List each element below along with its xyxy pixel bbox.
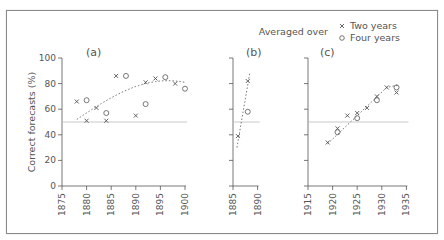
circle-marker [84, 98, 89, 103]
cross-marker [326, 140, 330, 144]
cross-marker [153, 76, 157, 80]
y-tick-label: 20 [45, 155, 57, 165]
x-tick-label: 1935 [401, 193, 411, 216]
y-tick-label: 80 [45, 79, 57, 89]
legend-two-years: Two years [349, 20, 397, 31]
x-tick-label: 1915 [303, 193, 313, 216]
legend-title: Averaged over [259, 26, 328, 37]
circle-marker [143, 102, 148, 107]
circle-marker [355, 116, 360, 121]
y-tick-label: 100 [39, 53, 56, 63]
cross-marker [75, 100, 79, 104]
y-tick-label: 40 [45, 130, 57, 140]
legend-cross-icon [340, 24, 344, 28]
cross-marker [365, 106, 369, 110]
x-tick-label: 1930 [377, 193, 387, 216]
x-tick-label: 1900 [180, 193, 190, 216]
cross-marker [395, 91, 399, 95]
circle-marker [374, 98, 379, 103]
x-tick-label: 1920 [328, 193, 338, 216]
cross-marker [345, 114, 349, 118]
x-tick-label: 1885 [106, 193, 116, 216]
legend-circle-icon [340, 36, 345, 41]
panel-label: (b) [246, 46, 262, 59]
legend-four-years: Four years [350, 32, 400, 43]
circle-marker [123, 73, 128, 78]
trend-curve [77, 81, 185, 120]
y-tick-label: 60 [45, 104, 57, 114]
y-tick-label: 0 [50, 181, 56, 191]
panel-c [304, 58, 408, 190]
circle-marker [335, 130, 340, 135]
cross-marker [134, 114, 138, 118]
circle-marker [104, 111, 109, 116]
chart-canvas: 020406080100187518801885189018951900(a)1… [0, 0, 444, 240]
x-tick-label: 1890 [253, 193, 263, 216]
x-tick-label: 1875 [57, 193, 67, 216]
cross-marker [114, 74, 118, 78]
x-tick-label: 1895 [155, 193, 165, 216]
panel-label: (a) [86, 46, 101, 59]
x-tick-label: 1880 [82, 193, 92, 216]
x-tick-label: 1925 [352, 193, 362, 216]
circle-marker [163, 75, 168, 80]
x-tick-label: 1885 [228, 193, 238, 216]
cross-marker [385, 85, 389, 89]
y-axis-label: Correct forecasts (%) [26, 72, 37, 173]
cross-marker [246, 79, 250, 83]
panel-a [58, 58, 188, 190]
x-tick-label: 1890 [131, 193, 141, 216]
cross-marker [355, 111, 359, 115]
circle-marker [245, 109, 250, 114]
panel-label: (c) [320, 46, 335, 59]
cross-marker [173, 82, 177, 86]
panel-b [229, 58, 260, 190]
circle-marker [183, 86, 188, 91]
